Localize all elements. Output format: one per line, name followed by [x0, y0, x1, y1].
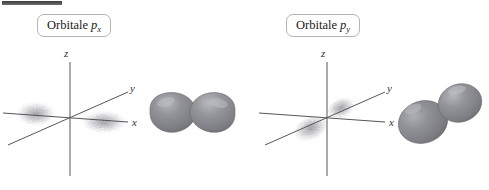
orbital-figure: Orbitale px: [0, 0, 489, 190]
lobes-diagram-py: [245, 0, 489, 190]
panel-orbital-py: Orbitale py: [245, 0, 489, 190]
panel-orbital-px: Orbitale px: [0, 0, 245, 190]
lobe-right-px: [190, 93, 235, 133]
lobes-diagram-px: [0, 0, 245, 190]
